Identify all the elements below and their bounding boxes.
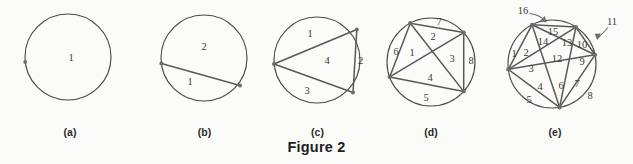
panel-d-diagram: 1 2 3 4 5 6 7 8 xyxy=(377,0,485,128)
region-label-7: 7 xyxy=(436,16,441,27)
panel-b-diagram: 2 1 xyxy=(152,0,257,128)
region-label-14: 14 xyxy=(538,36,549,47)
region-label-1: 1 xyxy=(68,52,73,63)
vertex-point xyxy=(462,89,466,93)
region-label-15: 15 xyxy=(548,26,559,37)
vertex-point xyxy=(351,91,355,95)
vertex-point xyxy=(238,84,242,88)
region-label-9: 9 xyxy=(579,56,584,67)
region-label-2: 2 xyxy=(358,55,363,66)
vertex-point xyxy=(558,105,562,109)
region-label-4: 4 xyxy=(427,72,433,83)
leader-line-11 xyxy=(598,28,609,39)
region-label-2: 2 xyxy=(201,41,206,52)
vertex-point xyxy=(593,53,597,57)
region-label-1: 1 xyxy=(409,47,414,58)
vertex-point xyxy=(408,21,412,25)
region-label-3: 3 xyxy=(449,53,454,64)
panel-c-diagram: 1 2 3 4 xyxy=(265,0,370,128)
region-label-10: 10 xyxy=(577,39,588,50)
circle-outline-b xyxy=(161,15,247,101)
region-label-8: 8 xyxy=(468,55,473,66)
vertex-point xyxy=(506,67,510,71)
chord-1 xyxy=(161,64,240,86)
region-label-4: 4 xyxy=(537,81,543,92)
region-label-16: 16 xyxy=(518,5,529,16)
chord-tl-br xyxy=(410,23,463,91)
vertex-point xyxy=(530,23,534,27)
vertex-point xyxy=(159,62,163,66)
figure-container: 1 (a) 2 1 (b) 1 2 3 4 (c) xyxy=(0,0,633,164)
panel-caption-d: (d) xyxy=(377,126,485,138)
panel-a-diagram: 1 xyxy=(20,0,120,128)
region-label-5: 5 xyxy=(423,92,428,103)
vertex-point xyxy=(23,60,27,64)
vertex-point xyxy=(574,25,578,29)
region-label-1: 1 xyxy=(307,28,312,39)
panel-caption-e: (e) xyxy=(495,126,615,138)
panel-caption-a: (a) xyxy=(20,126,120,138)
panel-e-diagram: 1 2 3 4 5 6 7 8 9 10 11 12 13 14 15 16 xyxy=(495,0,625,128)
vertex-point xyxy=(272,62,276,66)
region-label-7: 7 xyxy=(574,78,579,89)
figure-title: Figure 2 xyxy=(0,139,633,155)
region-label-2: 2 xyxy=(523,47,528,58)
region-label-12: 12 xyxy=(552,53,563,64)
panel-caption-c: (c) xyxy=(265,126,370,138)
vertex-point xyxy=(462,30,466,34)
vertex-point xyxy=(388,75,392,79)
vertex-point xyxy=(355,28,359,32)
region-label-6: 6 xyxy=(393,46,398,57)
panel-caption-b: (b) xyxy=(152,126,257,138)
region-label-6: 6 xyxy=(558,80,563,91)
region-label-4: 4 xyxy=(324,55,330,66)
chord-3 xyxy=(274,64,353,93)
region-label-5: 5 xyxy=(526,94,531,105)
region-label-1: 1 xyxy=(511,48,516,59)
chord-1 xyxy=(274,30,357,65)
region-label-8: 8 xyxy=(587,90,592,101)
region-label-3: 3 xyxy=(304,85,309,96)
region-label-13: 13 xyxy=(562,37,573,48)
region-label-2: 2 xyxy=(430,31,435,42)
region-label-11: 11 xyxy=(607,16,617,27)
region-label-1: 1 xyxy=(187,76,192,87)
region-label-3: 3 xyxy=(528,63,533,74)
